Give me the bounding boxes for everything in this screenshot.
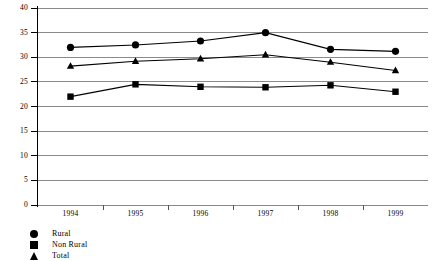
series-rural [67,29,399,55]
data-point-marker [262,84,268,90]
series-total [67,51,399,73]
legend-item-label: Non Rural [52,239,87,250]
data-point-marker [392,48,399,55]
data-point-marker [197,37,204,44]
series-non-rural [67,81,398,100]
data-point-marker [67,44,74,51]
circle-marker-icon [30,230,38,238]
data-point-marker [327,82,333,88]
square-marker-icon [30,241,38,249]
data-point-marker [197,84,203,90]
triangle-marker-icon [30,252,38,260]
data-point-marker [327,46,334,53]
series-line [71,55,396,71]
data-point-marker [262,51,269,58]
legend-item-non-rural[interactable]: Non Rural [30,239,180,250]
data-point-marker [262,29,269,36]
series-line [71,33,396,52]
legend-item-label: Rural [52,228,71,239]
legend: RuralNon RuralTotal [30,228,180,261]
data-point-marker [132,81,138,87]
legend-item-label: Total [52,250,69,261]
series-line [71,84,396,96]
data-point-marker [132,41,139,48]
legend-item-rural[interactable]: Rural [30,228,180,239]
data-point-marker [392,89,398,95]
legend-item-total[interactable]: Total [30,250,180,261]
data-point-marker [67,93,73,99]
